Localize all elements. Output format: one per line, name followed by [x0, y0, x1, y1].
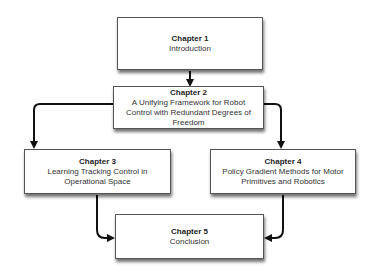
chapter-3-box: Chapter 3 Learning Tracking Control in O… [24, 149, 171, 194]
chapter-3-title: Chapter 3 [79, 157, 116, 167]
chapter-4-subtitle: Policy Gradient Methods for Motor Primit… [211, 167, 355, 187]
chapter-5-subtitle: Conclusion [164, 237, 216, 247]
chapter-3-subtitle: Learning Tracking Control in Operational… [25, 167, 170, 187]
edge-ch2-ch3 [34, 104, 113, 147]
chapter-1-box: Chapter 1 Introduction [117, 17, 263, 70]
chapter-5-title: Chapter 5 [171, 227, 208, 237]
edge-ch4-ch5 [266, 195, 283, 238]
edge-ch3-ch5 [97, 195, 113, 238]
chapter-1-title: Chapter 1 [172, 34, 209, 44]
chapter-4-box: Chapter 4 Policy Gradient Methods for Mo… [210, 149, 356, 194]
chapter-2-box: Chapter 2 A Unifying Framework for Robot… [113, 86, 264, 129]
chapter-2-subtitle: A Unifying Framework for Robot Control w… [114, 98, 263, 128]
chapter-1-subtitle: Introduction [163, 44, 217, 54]
chapter-2-title: Chapter 2 [170, 88, 207, 98]
edge-ch2-ch4 [264, 104, 281, 147]
chapter-5-box: Chapter 5 Conclusion [115, 214, 264, 259]
chapter-4-title: Chapter 4 [265, 157, 302, 167]
